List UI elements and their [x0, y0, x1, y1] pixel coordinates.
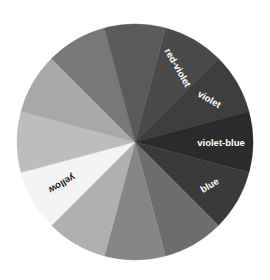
color-wheel-svg: red-violetvioletviolet-blueblueyellow [0, 0, 270, 280]
wedge-label-violet-blue: violet-blue [197, 137, 245, 148]
color-wheel-figure: red-violetvioletviolet-blueblueyellow [0, 0, 270, 280]
